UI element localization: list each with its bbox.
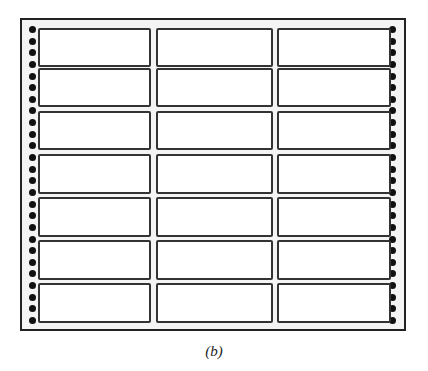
- label-cell: [156, 28, 273, 67]
- feed-hole-icon: [29, 131, 36, 138]
- feed-hole-icon: [29, 73, 36, 80]
- feed-hole-icon: [29, 259, 36, 266]
- label-cell: [156, 111, 273, 150]
- feed-hole-icon: [29, 84, 36, 91]
- label-cell: [38, 197, 151, 237]
- feed-hole-icon: [29, 177, 36, 184]
- feed-hole-icon: [29, 305, 36, 312]
- label-cell: [38, 111, 151, 150]
- left-tractor-feed-strip: [28, 20, 38, 329]
- feed-hole-icon: [29, 201, 36, 208]
- label-cell: [277, 28, 391, 67]
- feed-hole-icon: [29, 142, 36, 149]
- label-cell: [277, 68, 391, 107]
- label-cell: [38, 28, 151, 67]
- label-sheet: [20, 18, 406, 331]
- feed-hole-icon: [29, 294, 36, 301]
- label-cell: [38, 68, 151, 107]
- label-cell: [156, 68, 273, 107]
- label-cell: [38, 240, 151, 280]
- feed-hole-icon: [29, 282, 36, 289]
- feed-hole-icon: [29, 166, 36, 173]
- label-cell: [156, 197, 273, 237]
- feed-hole-icon: [29, 107, 36, 114]
- label-cell: [38, 283, 151, 323]
- label-cell: [277, 283, 391, 323]
- feed-hole-icon: [29, 224, 36, 231]
- feed-hole-icon: [29, 189, 36, 196]
- label-cell: [277, 197, 391, 237]
- feed-hole-icon: [29, 26, 36, 33]
- label-cell: [156, 240, 273, 280]
- label-cell: [156, 154, 273, 194]
- figure-caption: (b): [0, 343, 428, 360]
- label-cell: [38, 154, 151, 194]
- feed-hole-icon: [29, 270, 36, 277]
- feed-hole-icon: [29, 61, 36, 68]
- feed-hole-icon: [29, 38, 36, 45]
- label-cell: [277, 111, 391, 150]
- feed-hole-icon: [29, 154, 36, 161]
- label-cell: [277, 154, 391, 194]
- feed-hole-icon: [29, 212, 36, 219]
- label-cell: [277, 240, 391, 280]
- feed-hole-icon: [29, 247, 36, 254]
- feed-hole-icon: [29, 49, 36, 56]
- feed-hole-icon: [29, 236, 36, 243]
- feed-hole-icon: [29, 317, 36, 324]
- label-cell: [156, 283, 273, 323]
- feed-hole-icon: [29, 96, 36, 103]
- feed-hole-icon: [29, 119, 36, 126]
